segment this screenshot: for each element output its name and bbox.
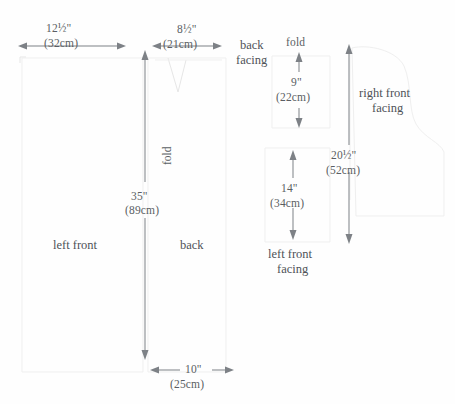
dim-label-left-front-facing-metric: (34cm) [270, 197, 304, 210]
dim-label-left-front-facing-imperial: 14" [281, 182, 298, 195]
dim-label-body-length-imperial: 35" [131, 190, 148, 203]
piece-label-right-front-facing-line2: facing [372, 101, 403, 116]
dim-label-body-length-metric: (89cm) [125, 204, 159, 217]
pattern-outlines-layer [0, 0, 455, 404]
fold-label-back-facing: fold [286, 36, 305, 49]
piece-label-back-facing-line2: facing [236, 53, 267, 68]
pattern-layout-diagram: 12½" (32cm) 8½" (21cm) 35" (89cm) 10" (2… [0, 0, 455, 404]
dim-arrow-back-facing-height [296, 52, 303, 128]
piece-label-back: back [180, 238, 204, 253]
dim-label-front-width-imperial: 12½" [46, 22, 71, 35]
back-outline [148, 58, 226, 372]
right-front-facing-outline [352, 47, 444, 216]
dim-label-back-width-imperial: 8½" [177, 23, 197, 36]
dim-arrow-right-front-facing-height [346, 44, 353, 244]
left-front-facing-outline [265, 148, 330, 242]
dim-label-back-facing-imperial: 9" [291, 76, 302, 89]
dim-label-back-facing-metric: (22cm) [276, 91, 310, 104]
dim-label-back-width-metric: (21cm) [163, 38, 197, 51]
dim-label-front-width-metric: (32cm) [44, 37, 78, 50]
fold-label-center: fold [161, 146, 173, 165]
dim-arrow-left-front-facing-height [290, 150, 297, 240]
piece-label-right-front-facing-line1: right front [359, 86, 410, 101]
piece-label-left-front: left front [53, 238, 97, 253]
dim-label-right-front-facing-imperial: 20½" [331, 149, 356, 162]
piece-label-back-facing-line1: back [240, 38, 264, 53]
back-neckline-v [168, 58, 186, 92]
dim-label-hem-width-metric: (25cm) [170, 378, 204, 391]
piece-label-left-front-facing-line2: facing [277, 262, 308, 277]
dim-label-right-front-facing-metric: (52cm) [326, 164, 360, 177]
dim-label-hem-width-imperial: 10" [185, 363, 202, 376]
piece-label-left-front-facing-line1: left front [268, 247, 312, 262]
left-front-corner-mark [20, 57, 26, 63]
